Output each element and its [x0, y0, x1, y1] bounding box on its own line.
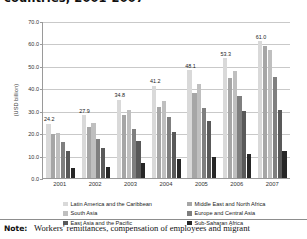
legend-label: South Asia — [71, 210, 98, 216]
bar: 27.9 — [82, 115, 86, 178]
legend-swatch — [63, 202, 68, 207]
bar — [157, 107, 161, 178]
bar — [132, 129, 136, 178]
bar: 48.1 — [187, 70, 191, 178]
plot-area: 0.010.020.030.040.050.060.070.0 24.227.9… — [42, 22, 290, 179]
x-axis-tick-labels: 2001200220032004200520062007 — [42, 181, 290, 187]
legend-item[interactable]: South Asia — [63, 210, 187, 216]
bar — [207, 121, 211, 178]
y-axis-label: (USD billion) — [13, 70, 19, 130]
x-axis-tick-label: 2006 — [219, 181, 254, 187]
bar-value-label: 41.2 — [150, 78, 161, 84]
legend-swatch — [187, 202, 192, 207]
x-axis-tick-label: 2005 — [184, 181, 219, 187]
bar — [177, 159, 181, 178]
legend-label: Europe and Central Asia — [195, 210, 256, 216]
bar: 61.0 — [258, 41, 262, 178]
legend-item[interactable]: Europe and Central Asia — [187, 210, 293, 216]
footer-note: Note: Workers' remittances, compensation… — [0, 219, 307, 239]
bar — [172, 132, 176, 178]
bar — [122, 115, 126, 178]
bar-group: 61.0 — [255, 22, 290, 178]
bar — [237, 96, 241, 178]
bar-value-label: 53.3 — [220, 51, 231, 57]
bar — [247, 154, 251, 178]
bar — [61, 142, 65, 178]
x-axis-tick-label: 2004 — [148, 181, 183, 187]
bar — [233, 71, 237, 178]
y-axis-tick-mark — [40, 179, 43, 180]
bar — [136, 141, 140, 178]
bar-group: 24.2 — [43, 22, 78, 178]
bar — [167, 117, 171, 178]
x-axis-tick-label: 2002 — [77, 181, 112, 187]
bar-value-label: 61.0 — [256, 34, 267, 40]
bar-value-label: 27.9 — [79, 108, 90, 114]
x-axis-tick-label: 2003 — [113, 181, 148, 187]
bar-groups: 24.227.934.841.248.153.361.0 — [43, 22, 290, 178]
bar — [192, 93, 196, 178]
y-axis-tick-label: 70.0 — [28, 19, 39, 25]
y-axis-tick-label: 0.0 — [31, 176, 39, 182]
legend-label: Latin America and the Caribbean — [71, 201, 152, 207]
y-axis-tick-label: 10.0 — [28, 154, 39, 160]
x-axis-tick-label: 2001 — [42, 181, 77, 187]
bar: 53.3 — [223, 58, 227, 178]
bar — [127, 110, 131, 178]
bar — [278, 110, 282, 178]
bar — [242, 111, 246, 178]
bar-group: 34.8 — [114, 22, 149, 178]
bar-group: 27.9 — [78, 22, 113, 178]
y-axis-tick-label: 30.0 — [28, 109, 39, 115]
legend-item[interactable]: Latin America and the Caribbean — [63, 201, 187, 207]
legend-swatch — [63, 211, 68, 216]
page-title: countries, 2001-2007 — [4, 0, 304, 5]
bar-value-label: 48.1 — [185, 63, 196, 69]
bar-group: 53.3 — [219, 22, 254, 178]
bar — [162, 101, 166, 178]
legend-label: Middle East and North Africa — [195, 201, 266, 207]
bar: 34.8 — [117, 100, 121, 178]
bar — [282, 151, 286, 178]
bar — [101, 148, 105, 178]
bar: 41.2 — [152, 86, 156, 178]
bar — [106, 167, 110, 178]
legend-item[interactable]: Middle East and North Africa — [187, 201, 293, 207]
x-axis-tick-label: 2007 — [255, 181, 290, 187]
note-text: Workers' remittances, compensation of em… — [34, 223, 250, 233]
note-key: Note: — [0, 224, 34, 233]
bar — [96, 139, 100, 178]
bar — [71, 168, 75, 178]
bar — [268, 50, 272, 178]
chart-container: (USD billion) 0.010.020.030.040.050.060.… — [3, 9, 304, 216]
y-axis-tick-label: 20.0 — [28, 131, 39, 137]
bar — [141, 163, 145, 178]
bar-value-label: 24.2 — [44, 116, 55, 122]
bar-value-label: 34.8 — [115, 92, 126, 98]
legend-swatch — [187, 211, 192, 216]
bar — [51, 134, 55, 178]
bar — [228, 78, 232, 178]
bar — [263, 46, 267, 178]
bar — [91, 123, 95, 178]
y-axis-tick-label: 60.0 — [28, 41, 39, 47]
bar — [273, 77, 277, 178]
bar — [56, 133, 60, 178]
bar — [212, 157, 216, 178]
bar-group: 41.2 — [149, 22, 184, 178]
bar — [66, 151, 70, 178]
bar — [87, 127, 91, 178]
bar: 24.2 — [46, 124, 50, 178]
bar — [202, 108, 206, 178]
y-axis-tick-label: 40.0 — [28, 86, 39, 92]
y-axis-tick-label: 50.0 — [28, 64, 39, 70]
bar-group: 48.1 — [184, 22, 219, 178]
bar — [197, 84, 201, 178]
